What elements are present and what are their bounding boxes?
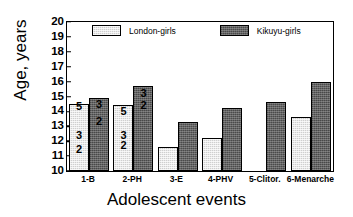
bar-stage-label: 3 [70,129,88,140]
bar[interactable] [202,138,222,171]
bar-groups: 5323253232 [67,22,333,171]
y-axis-tick: 11 [46,150,67,162]
y-axis-tick: 10 [46,165,67,177]
legend-label: London-girls [129,26,176,36]
x-axis-tick-labels: 1-B2-PH3-E4-PHV5-Clitor.6-Menarche [66,174,334,184]
y-axis-title: Age, years [11,0,31,125]
bar-group [289,22,333,171]
bar[interactable] [291,117,311,171]
y-axis-tick: 18 [46,46,67,58]
y-axis-tick: 14 [46,106,67,118]
bar-stage-label: 3 [90,99,108,110]
y-axis-tick-label: 17 [46,61,67,73]
y-axis-tick-label: 14 [46,106,67,118]
y-axis-tick-label: 18 [46,46,67,58]
bar-stage-label: 2 [134,99,152,110]
legend-entry[interactable]: London-girls [92,25,176,36]
bar[interactable] [311,82,331,171]
bar[interactable] [158,147,178,171]
y-axis-tick-label: 11 [46,150,67,162]
x-axis-tick-label: 4-PHV [198,174,242,184]
y-axis-tick: 15 [46,91,67,103]
x-axis-tick-label: 3-E [154,174,198,184]
y-axis-tick-label: 16 [46,76,67,88]
bar-stage-label: 2 [70,144,88,155]
x-axis-tick-label: 5-Clitor. [243,174,287,184]
y-axis-tick: 19 [46,31,67,43]
bar[interactable] [222,108,242,171]
plot-area: 1011121314151617181920 5323253232 [66,21,334,172]
y-axis-tick-label: 20 [46,16,67,28]
y-axis-tick-label: 19 [46,31,67,43]
x-axis-title: Adolescent events [0,190,353,210]
bar-stage-label: 2 [90,115,108,126]
legend-label: Kikuyu-girls [257,26,301,36]
x-axis-tick-label: 2-PH [110,174,154,184]
legend-swatch [92,25,121,36]
y-axis-tick: 13 [46,121,67,133]
bar-group [200,22,244,171]
legend-entry[interactable]: Kikuyu-girls [220,25,301,36]
bar[interactable] [178,122,198,171]
bar[interactable]: 532 [113,105,133,171]
bar-stage-label: 5 [70,100,88,111]
y-axis-tick: 16 [46,76,67,88]
bar-group [244,22,288,171]
bar[interactable]: 32 [133,86,153,171]
bar-stage-label: 5 [114,105,132,116]
legend-swatch [220,25,249,36]
y-axis-tick: 12 [46,135,67,147]
bar-stage-label: 3 [134,87,152,98]
bar[interactable] [266,102,286,171]
bar[interactable]: 532 [69,104,89,171]
x-axis-tick-label: 6-Menarche [287,174,334,184]
y-axis-tick: 17 [46,61,67,73]
y-axis-tick-label: 15 [46,91,67,103]
bar-group: 53232 [111,22,155,171]
chart-legend: London-girlsKikuyu-girls [92,25,332,36]
x-axis-tick-label: 1-B [66,174,110,184]
y-axis-tick-label: 12 [46,135,67,147]
bar-group [156,22,200,171]
bar-group: 53232 [67,22,111,171]
bar[interactable]: 32 [89,98,109,171]
y-axis-tick-label: 10 [46,165,67,177]
bar-stage-label: 2 [114,139,132,150]
chart-figure: Age, years 1011121314151617181920 532325… [0,0,353,217]
y-axis-tick: 20 [46,16,67,28]
y-axis-tick-label: 13 [46,121,67,133]
